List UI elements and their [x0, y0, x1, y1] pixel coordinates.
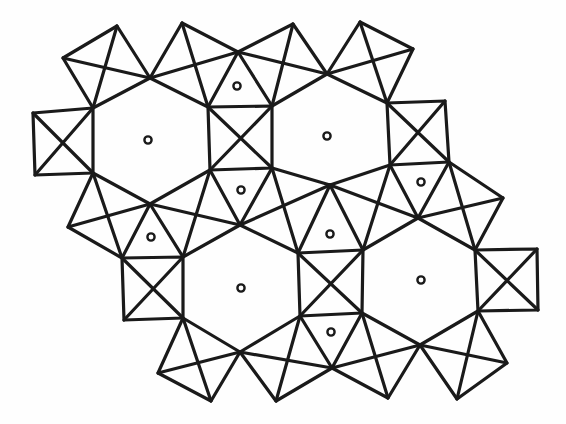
triangular-site-cation-marker — [233, 82, 240, 89]
polyhedral-framework — [0, 0, 566, 424]
triangular-site-cation-marker — [237, 186, 244, 193]
triangular-site-cation-marker — [147, 233, 154, 240]
tetrahedron-diamond — [327, 22, 413, 103]
tetrahedron-diamond — [332, 313, 420, 398]
octahedron-square — [298, 250, 363, 316]
octahedron-square — [387, 101, 449, 165]
tetrahedron-diamond — [240, 168, 330, 253]
tetrahedron-diamond — [420, 311, 507, 399]
tetrahedra-diamonds — [63, 22, 507, 401]
tetrahedron-diamond — [240, 316, 332, 401]
hexagonal-channel-cation-marker — [323, 132, 330, 139]
tetrahedron-diamond — [150, 23, 238, 107]
octahedron-square — [122, 257, 183, 320]
tetrahedron-diamond — [158, 318, 240, 401]
triangular-site-cation-marker — [327, 328, 334, 335]
triangular-site-cation-marker — [326, 230, 333, 237]
tetrahedron-diamond — [330, 165, 418, 250]
tetrahedron-diamond — [238, 24, 327, 106]
tetrahedron-diamond — [63, 26, 150, 108]
tetrahedron-diamond — [418, 162, 503, 250]
hexagonal-channel-cation-marker — [237, 284, 244, 291]
tetrahedron-diamond — [150, 170, 240, 257]
octahedron-square — [208, 106, 272, 170]
structure-diagram — [0, 0, 566, 424]
octahedron-square — [475, 249, 538, 311]
octahedron-square — [33, 108, 93, 175]
hexagonal-channel-cation-marker — [417, 276, 424, 283]
triangular-site-cation-marker — [417, 178, 424, 185]
hexagonal-channel-cation-marker — [144, 136, 151, 143]
tetrahedron-diamond — [68, 173, 150, 258]
